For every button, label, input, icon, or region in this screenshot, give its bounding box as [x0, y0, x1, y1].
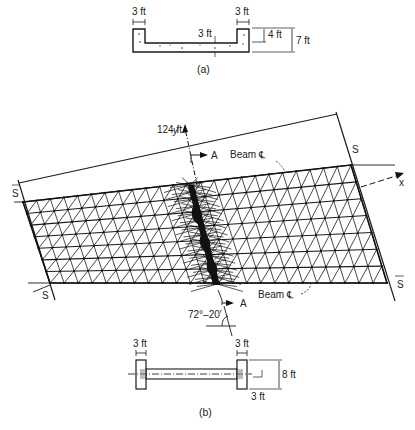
support-label-s: S — [352, 144, 359, 155]
dim-slab-thickness: 3 ft — [198, 28, 212, 39]
x-axis-label: x — [399, 177, 404, 188]
skew-angle-label: 72°–20′ — [188, 309, 222, 320]
caption-a: (a) — [197, 63, 210, 75]
dim-beam-depth: 8 ft — [282, 369, 296, 380]
dim-right-wall: 3 ft — [235, 6, 249, 17]
y-axis-arrowhead — [182, 124, 188, 133]
span-label: 124 ft — [157, 124, 182, 135]
section-arrow-top — [200, 152, 208, 158]
dim-right-beam: 3 ft — [235, 338, 249, 349]
plan-view: 124 ft S S S S y x A — [12, 112, 404, 336]
right-support-line — [336, 112, 395, 301]
section-marker-a-bottom: A — [240, 298, 247, 309]
caption-b: (b) — [199, 406, 212, 418]
support-label-s: S — [12, 188, 19, 199]
dim-slab-offset: 3 ft — [251, 391, 265, 402]
dim-left-beam: 3 ft — [133, 338, 147, 349]
x-axis — [361, 175, 399, 187]
dim-left-wall: 3 ft — [132, 6, 146, 17]
concrete-hatch — [138, 33, 245, 49]
dim-total-depth: 7 ft — [296, 35, 310, 46]
y-axis-label: y — [172, 125, 179, 136]
skew-bridge-figure: 3 ft 3 ft 3 ft 4 ft 7 ft (a) 124 ft S — [0, 0, 415, 430]
channel-section-outline — [133, 29, 249, 52]
beam-centerline-label-bottom: Beam ℄ — [258, 289, 294, 300]
beam-centerline-label-top: Beam ℄ — [230, 149, 266, 160]
section-b: 3 ft 3 ft 8 ft 3 ft (b) — [128, 338, 296, 418]
support-label-s: S — [42, 290, 49, 301]
section-marker-a-top: A — [211, 150, 218, 161]
support-label-s: S — [397, 279, 404, 290]
section-a: 3 ft 3 ft 3 ft 4 ft 7 ft (a) — [132, 6, 310, 75]
section-arrow-bottom — [226, 300, 234, 306]
dim-inner-depth: 4 ft — [268, 29, 282, 40]
